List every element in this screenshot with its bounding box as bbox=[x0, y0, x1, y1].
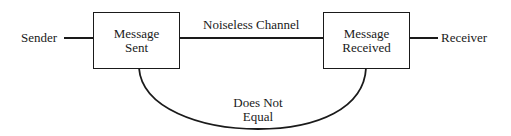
message-received-line1: Message bbox=[344, 27, 390, 41]
comparison-line2: Equal bbox=[228, 110, 288, 124]
comparison-line1: Does Not bbox=[228, 96, 288, 110]
channel-label: Noiseless Channel bbox=[203, 18, 299, 32]
message-received-box: Message Received bbox=[323, 12, 410, 69]
message-sent-line2: Sent bbox=[125, 41, 148, 55]
comparison-label: Does Not Equal bbox=[228, 96, 288, 124]
message-received-line2: Received bbox=[342, 41, 390, 55]
receiver-label: Receiver bbox=[441, 31, 487, 45]
sender-label: Sender bbox=[21, 31, 57, 45]
communication-diagram: Sender Message Sent Noiseless Channel Me… bbox=[0, 0, 511, 136]
message-sent-box: Message Sent bbox=[93, 12, 180, 69]
message-sent-line1: Message bbox=[114, 27, 160, 41]
